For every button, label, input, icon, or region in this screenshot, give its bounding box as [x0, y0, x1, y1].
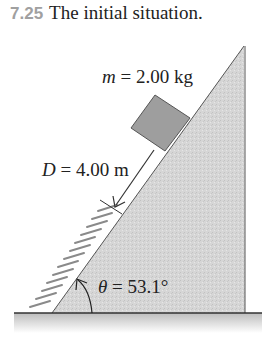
- incline-diagram: m = 2.00 kg D = 4.00 m θ = 53.1°: [0, 0, 278, 343]
- mass-label: m = 2.00 kg: [102, 66, 193, 87]
- figure: 7.25The initial situation.: [0, 0, 278, 343]
- distance-label: D = 4.00 m: [41, 159, 129, 180]
- ground-shading: [14, 313, 262, 333]
- angle-label: θ = 53.1°: [98, 276, 168, 297]
